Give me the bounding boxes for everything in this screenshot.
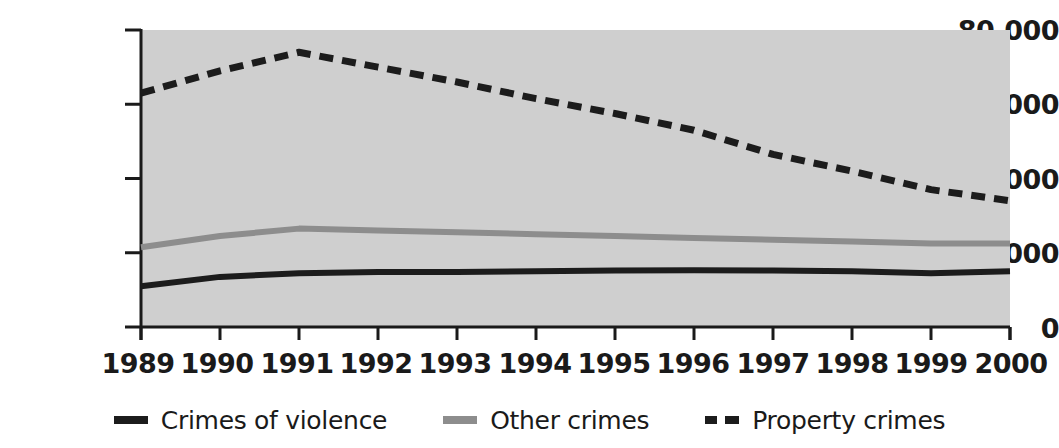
series-line-other-crimes (141, 229, 1010, 248)
y-axis-tick-label: 20,000 (934, 240, 1059, 267)
legend-swatch-solid-dark-icon (114, 416, 148, 424)
series-line-property-crimes (141, 52, 1010, 201)
legend-item-crimes-of-violence[interactable]: Crimes of violence (114, 408, 387, 433)
axis-lines (141, 29, 1010, 340)
y-axis-tick-label: 80,000 (934, 17, 1059, 44)
y-axis-tick-label: 60,000 (934, 91, 1059, 118)
plot-background (141, 30, 1010, 327)
chart-legend: Crimes of violence Other crimes Property… (0, 398, 1059, 442)
line-chart: 80,000 60,000 40,000 20,000 0 1989 1990 … (0, 0, 1059, 448)
legend-label: Property crimes (752, 408, 945, 433)
plot-area (0, 0, 1059, 448)
legend-label: Other crimes (490, 408, 649, 433)
series-line-crimes-of-violence (141, 270, 1010, 286)
series-layer (141, 52, 1010, 286)
legend-item-other-crimes[interactable]: Other crimes (443, 408, 649, 433)
legend-label: Crimes of violence (161, 408, 387, 433)
axis-tick-marks (125, 30, 1010, 340)
y-axis-tick-label: 40,000 (934, 166, 1059, 193)
legend-item-property-crimes[interactable]: Property crimes (705, 408, 945, 433)
x-axis-tick-label: 2000 (961, 350, 1059, 377)
legend-swatch-dashed-dark-icon (705, 416, 739, 424)
y-axis-tick-label: 0 (934, 315, 1059, 342)
legend-swatch-solid-gray-icon (443, 416, 477, 424)
